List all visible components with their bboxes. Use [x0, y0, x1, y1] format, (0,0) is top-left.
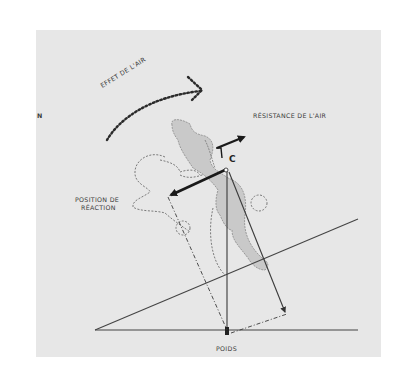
label-edge-fragment: N: [37, 112, 43, 120]
skier-silhouette: [172, 120, 268, 270]
label-reaction-line2: RÉACTION: [75, 204, 135, 212]
force-diagram: [0, 0, 403, 386]
construction-line-1: [168, 197, 227, 330]
label-weight: POIDS: [216, 345, 237, 353]
resistance-bracket: [216, 148, 222, 158]
weight-tip: [225, 327, 229, 335]
label-air-resistance: RÉSISTANCE DE L'AIR: [253, 112, 326, 120]
label-center-point: C: [229, 155, 236, 163]
air-resistance-vector: [217, 137, 244, 148]
label-reaction-position: POSITION DE RÉACTION: [75, 196, 135, 212]
center-of-mass-point: [224, 168, 228, 172]
label-reaction-line1: POSITION DE: [75, 196, 135, 204]
